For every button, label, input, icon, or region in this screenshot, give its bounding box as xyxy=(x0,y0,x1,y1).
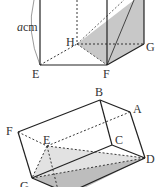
vertex-label-a: A xyxy=(133,102,142,116)
vertex-label-e: E xyxy=(32,67,39,81)
height-label: acm xyxy=(17,20,38,34)
bottom-cuboid-figure: B A F E C D G xyxy=(6,85,155,187)
shaded-section xyxy=(77,0,144,65)
vertex-label-e: E xyxy=(43,133,50,147)
vertex-label-d: D xyxy=(146,152,155,166)
geometry-figure: acm H G E F B A F E C D G xyxy=(0,0,162,187)
vertex-label-g: G xyxy=(146,40,155,54)
vertex-label-h: H xyxy=(66,35,75,49)
vertex-label-f: F xyxy=(103,67,110,81)
vertex-label-f: F xyxy=(6,124,13,138)
vertex-label-g: G xyxy=(20,179,29,187)
top-cuboid-figure: acm H G E F xyxy=(17,0,155,81)
vertex-label-b: B xyxy=(95,85,103,99)
vertex-label-c: C xyxy=(115,133,123,147)
